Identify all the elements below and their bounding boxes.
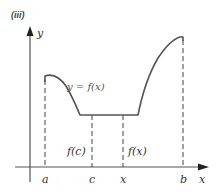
y-axis-arrow-icon	[27, 26, 34, 36]
x-axis-arrow-icon	[198, 164, 209, 171]
curve-label: y = f(x)	[67, 82, 105, 92]
tick-label-c: c	[89, 174, 95, 185]
fc-label: f(c)	[67, 146, 86, 157]
y-axis-label: y	[37, 28, 43, 39]
panel-label: (iii)	[11, 10, 25, 20]
tick-label-b: b	[180, 174, 187, 185]
graph-canvas	[0, 0, 221, 192]
function-curve	[45, 37, 183, 115]
x-axis-label: x	[199, 174, 205, 185]
fx-label: f(x)	[128, 146, 147, 157]
tick-label-a: a	[42, 174, 49, 185]
function-graph-figure: (iii) y y = f(x) f(c) f(x) a c x b x	[0, 0, 221, 192]
tick-label-x: x	[120, 174, 126, 185]
